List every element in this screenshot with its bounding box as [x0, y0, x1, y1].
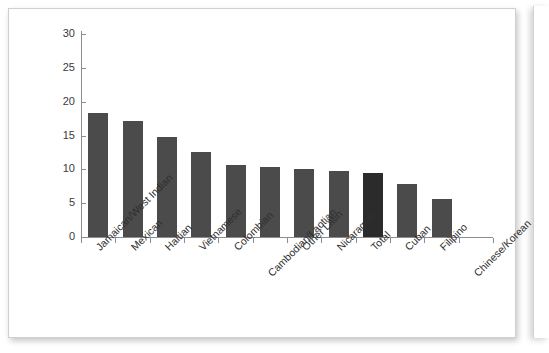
plot-area: 051015202530 Jamaican/West IndianMexican…	[9, 9, 517, 339]
y-axis-tick	[81, 68, 86, 69]
y-axis-tick-label: 15	[49, 130, 75, 141]
bar	[397, 184, 417, 237]
page-surface: 051015202530 Jamaican/West IndianMexican…	[0, 0, 549, 353]
x-axis-tick	[493, 238, 494, 243]
bar	[191, 152, 211, 237]
x-axis-label: Chinese/Korean	[472, 218, 533, 279]
x-axis-tick	[81, 238, 82, 243]
y-axis-tick	[81, 102, 86, 103]
bar-chart-figure: 051015202530 Jamaican/West IndianMexican…	[8, 8, 516, 338]
y-axis-tick-label: 20	[49, 96, 75, 107]
y-axis-tick-label: 10	[49, 163, 75, 174]
bar	[88, 113, 108, 237]
x-axis-tick	[287, 238, 288, 243]
y-axis-tick	[81, 169, 86, 170]
y-axis-tick	[81, 34, 86, 35]
y-axis-tick-label: 25	[49, 62, 75, 73]
y-axis-tick-label: 5	[49, 197, 75, 208]
y-axis-line	[81, 31, 82, 237]
y-axis-tick-label: 30	[49, 28, 75, 39]
y-axis-tick	[81, 136, 86, 137]
y-axis-tick-label: 0	[49, 231, 75, 242]
adjacent-page-edge	[533, 6, 549, 338]
y-axis-tick	[81, 203, 86, 204]
